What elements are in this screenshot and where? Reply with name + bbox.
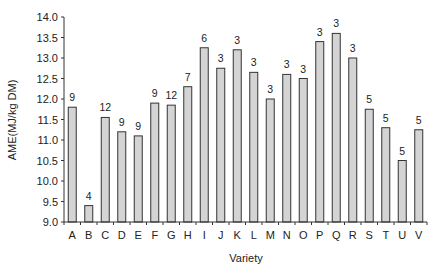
x-tick-label: J — [218, 229, 224, 241]
x-tick-label: M — [266, 229, 275, 241]
x-tick-label: D — [118, 229, 126, 241]
data-label: 3 — [234, 34, 240, 46]
bar-Q — [332, 33, 340, 222]
data-label: 3 — [350, 42, 356, 54]
data-label: 5 — [366, 93, 372, 105]
y-tick-label: 13.5 — [37, 32, 58, 44]
bar-H — [184, 87, 192, 222]
x-tick-label: E — [135, 229, 142, 241]
y-tick-label: 10.0 — [37, 175, 58, 187]
data-label: 9 — [119, 116, 125, 128]
y-tick-label: 13.0 — [37, 52, 58, 64]
x-tick-label: F — [151, 229, 158, 241]
data-label: 3 — [267, 83, 273, 95]
data-label: 12 — [165, 89, 177, 101]
y-axis-title: AME(MJ/kg DM) — [6, 80, 18, 161]
x-tick-label: N — [283, 229, 291, 241]
x-tick-label: R — [349, 229, 357, 241]
data-label: 9 — [135, 120, 141, 132]
data-label: 6 — [201, 32, 207, 44]
bar-C — [101, 117, 109, 222]
bar-N — [283, 74, 291, 222]
bar-O — [299, 79, 307, 223]
data-label: 9 — [69, 91, 75, 103]
y-tick-label: 11.0 — [37, 134, 58, 146]
data-label: 5 — [383, 112, 389, 124]
x-tick-label: C — [101, 229, 109, 241]
bar-G — [167, 105, 175, 222]
bar-R — [349, 58, 357, 222]
data-label: 5 — [399, 145, 405, 157]
y-axis: 9.09.510.010.511.011.512.012.513.013.514… — [37, 11, 64, 228]
x-axis-title: Variety — [229, 252, 263, 264]
y-tick-label: 14.0 — [37, 11, 58, 23]
bar-E — [134, 136, 142, 222]
x-tick-label: G — [167, 229, 176, 241]
bar-A — [68, 107, 76, 222]
bar-J — [217, 68, 225, 222]
x-tick-label: P — [316, 229, 323, 241]
bar-B — [85, 206, 93, 222]
data-label: 9 — [152, 87, 158, 99]
bars: 941299912763333333335555 — [68, 17, 423, 222]
data-label: 5 — [416, 114, 422, 126]
data-label: 3 — [300, 63, 306, 75]
y-tick-label: 11.5 — [37, 114, 58, 126]
x-tick-label: I — [203, 229, 206, 241]
data-label: 3 — [251, 56, 257, 68]
x-tick-label: L — [251, 229, 257, 241]
data-label: 3 — [333, 17, 339, 29]
y-tick-label: 12.5 — [37, 73, 58, 85]
bar-I — [200, 48, 208, 222]
bar-P — [316, 42, 324, 222]
bar-K — [233, 50, 241, 222]
x-tick-label: Q — [332, 229, 341, 241]
bar-U — [398, 161, 406, 223]
bar-T — [382, 128, 390, 222]
x-tick-label: H — [184, 229, 192, 241]
x-tick-label: A — [69, 229, 77, 241]
bar-M — [266, 99, 274, 222]
x-tick-label: T — [382, 229, 389, 241]
bar-S — [365, 109, 373, 222]
y-tick-label: 9.0 — [43, 216, 58, 228]
x-tick-label: U — [398, 229, 406, 241]
data-label: 12 — [99, 101, 111, 113]
data-label: 3 — [284, 58, 290, 70]
data-label: 3 — [218, 52, 224, 64]
x-tick-label: S — [366, 229, 373, 241]
x-tick-label: B — [85, 229, 92, 241]
y-tick-label: 12.0 — [37, 93, 58, 105]
data-label: 3 — [317, 26, 323, 38]
y-tick-label: 10.5 — [37, 155, 58, 167]
y-tick-label: 9.5 — [43, 196, 58, 208]
x-axis: ABCDEFGHIJKLMNOPQRSTUV — [64, 222, 427, 241]
bar-chart: 9.09.510.010.511.011.512.012.513.013.514… — [0, 0, 435, 272]
data-label: 4 — [86, 190, 92, 202]
data-label: 7 — [185, 71, 191, 83]
bar-V — [415, 130, 423, 222]
x-tick-label: V — [415, 229, 423, 241]
x-tick-label: K — [234, 229, 242, 241]
bar-F — [151, 103, 159, 222]
bar-D — [118, 132, 126, 222]
bar-L — [250, 72, 258, 222]
x-tick-label: O — [299, 229, 308, 241]
